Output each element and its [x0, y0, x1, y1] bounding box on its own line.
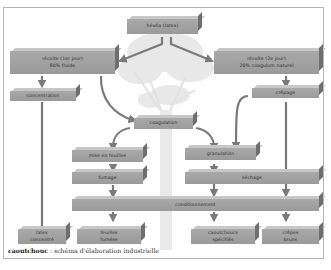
node-crepes-bruns: crêpes bruns — [262, 229, 319, 244]
node-recolte-2: récolte (2e jour) 20% coagulum naturel — [214, 51, 319, 74]
node-feuilles-fumees: feuilles fumées — [77, 229, 141, 244]
node-crepage-label: crêpage — [276, 90, 295, 96]
node-crepes-bruns-label: crêpes bruns — [283, 230, 299, 242]
node-hevea-label: hévéa (latex) — [147, 23, 179, 29]
node-granulation: granulation — [185, 148, 256, 160]
node-coagulation: coagulation — [134, 118, 193, 129]
node-concentration: concentration — [10, 91, 76, 101]
node-recolte-2-label: récolte (2e jour) 20% coagulum naturel — [239, 56, 293, 68]
node-fumage-label: fumage — [98, 175, 116, 181]
node-recolte-1: récolte (1er jour) 80% fluide — [10, 51, 115, 74]
node-fumage: fumage — [72, 172, 143, 184]
node-crepage: crêpage — [252, 88, 319, 98]
diagram-caption: caoutchouc : schéma d'élaboration indust… — [8, 247, 159, 254]
node-caoutchoucs-specifies-label: caoutchoucs spécifiés — [208, 230, 238, 242]
node-caoutchoucs-specifies: caoutchoucs spécifiés — [191, 229, 255, 244]
node-mise-en-feuilles: mise en feuilles — [72, 150, 143, 162]
node-mise-en-feuilles-label: mise en feuilles — [89, 153, 127, 159]
arrow-hevea-recolte1 — [122, 37, 162, 60]
node-latex-concentre: latex concentré — [18, 229, 66, 244]
caption-title: caoutchouc — [8, 247, 48, 254]
node-sechage-label: séchage — [242, 175, 262, 181]
node-latex-concentre-label: latex concentré — [30, 230, 54, 242]
node-conditionnement-label: conditionnement — [175, 202, 216, 208]
node-conditionnement: conditionnement — [72, 199, 319, 211]
node-granulation-label: granulation — [207, 151, 234, 157]
arrow-hevea-recolte2 — [171, 37, 210, 60]
node-coagulation-label: coagulation — [150, 120, 178, 126]
node-concentration-label: concentration — [26, 93, 59, 99]
node-sechage: séchage — [185, 172, 319, 184]
caption-text: schéma d'élaboration industrielle — [54, 247, 159, 254]
node-hevea: hévéa (latex) — [127, 19, 198, 34]
node-recolte-1-label: récolte (1er jour) 80% fluide — [42, 56, 83, 68]
node-feuilles-fumees-label: feuilles fumées — [100, 230, 118, 242]
